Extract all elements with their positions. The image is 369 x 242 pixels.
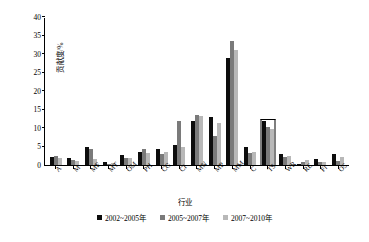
x-tick-cell: CG [152,167,170,193]
x-tick-cell: RE [294,167,312,193]
bar-group [329,18,347,165]
legend-item[interactable]: 2005~2007年 [160,212,209,223]
y-tick-label: 35 [15,32,45,40]
bar-group [170,18,188,165]
bar [199,116,203,165]
bar-group [65,18,83,165]
x-tick-cell: MM [223,167,241,193]
x-tick-cell: M [64,167,82,193]
x-tick-cell: FI [312,167,330,193]
legend-swatch-icon [97,215,102,220]
x-axis-tick-labels: AMMFMTOMPHCGCIMNMPMMCTSWRREFIOS [44,167,349,193]
x-tick-cell: CI [170,167,188,193]
bar-group [312,18,330,165]
bar-group [259,18,277,165]
bar [270,129,274,165]
x-tick-cell: C [241,167,259,193]
x-tick-cell: MP [205,167,223,193]
bar-group [100,18,118,165]
y-tick-label: 15 [15,106,45,114]
legend-label: 2005~2007年 [168,212,209,223]
bar-chart: 贡献度/% 0510152025303540 AMMFMTOMPHCGCIMNM… [0,0,369,242]
y-tick-label: 10 [15,124,45,132]
x-tick-cell: MF [81,167,99,193]
legend-item[interactable]: 2002~2005年 [97,212,146,223]
bar-group [241,18,259,165]
bar [234,50,238,165]
bar-group [135,18,153,165]
x-tick-cell: MT [99,167,117,193]
legend: 2002~2005年2005~2007年2007~2010年 [0,212,369,223]
bar-group [188,18,206,165]
x-tick-cell: MN [188,167,206,193]
bar-group [47,18,65,165]
x-axis-title: 行业 [0,196,369,207]
y-tick-mark [42,16,45,17]
bar-group [223,18,241,165]
x-tick-cell: WR [276,167,294,193]
x-tick-cell: OS [329,167,347,193]
y-tick-label: 30 [15,50,45,58]
bar [58,158,62,165]
x-tick-cell: TS [258,167,276,193]
bar-group [206,18,224,165]
bar-group [153,18,171,165]
x-tick-cell: PH [135,167,153,193]
x-tick-cell: OM [117,167,135,193]
bar-group [118,18,136,165]
bar [217,123,221,165]
bars-layer [45,18,349,165]
bar-group [276,18,294,165]
plot-area: 贡献度/% 0510152025303540 [44,18,349,166]
y-tick-label: 25 [15,69,45,77]
y-tick-label: 20 [15,87,45,95]
y-tick-label: 0 [15,161,45,169]
legend-swatch-icon [160,215,165,220]
legend-label: 2007~2010年 [231,212,272,223]
legend-swatch-icon [223,215,228,220]
bar [252,152,256,165]
bar-group [294,18,312,165]
y-tick-label: 5 [15,143,45,151]
bar-group [82,18,100,165]
x-tick-label: C [249,165,258,174]
legend-label: 2002~2005年 [105,212,146,223]
x-tick-cell: A [46,167,64,193]
legend-item[interactable]: 2007~2010年 [223,212,272,223]
y-tick-label: 40 [15,13,45,21]
